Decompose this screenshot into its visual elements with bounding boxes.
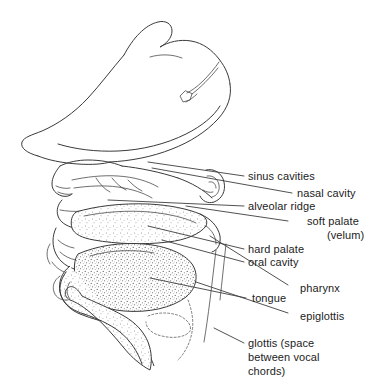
label-velum: (velum) [327,229,364,243]
leader-glottis [214,328,244,343]
hat-outline [22,21,231,164]
label-oral-cavity: oral cavity [248,256,299,270]
label-glottis-line2: between vocal [248,351,320,365]
label-alveolar-ridge: alveolar ridge [248,200,315,214]
label-sinus-cavities: sinus cavities [248,170,315,184]
anatomy-figure: sinus cavities nasal cavity alveolar rid… [0,0,392,387]
nasal-cavity-structures [72,176,158,198]
label-nasal-cavity: nasal cavity [297,187,356,201]
label-epiglottis: epiglottis [300,310,344,324]
hat-feather-detail [180,62,219,102]
label-glottis-line1: glottis (space [248,337,314,351]
label-glottis-line3: chords) [248,365,285,379]
label-soft-palate: soft palate [307,215,359,229]
label-pharynx: pharynx [300,282,340,296]
label-tongue: tongue [252,292,286,306]
leader-sinus-cavities [148,162,244,176]
label-hard-palate: hard palate [248,243,304,257]
